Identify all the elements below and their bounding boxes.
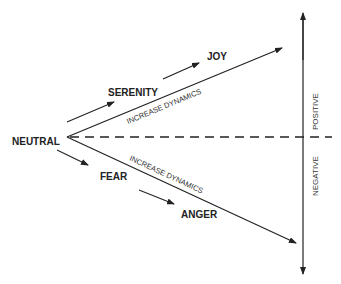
lower-increase-dynamics-label: INCREASE DYNAMICS — [128, 154, 204, 196]
diagram-svg: NEUTRAL SERENITY JOY FEAR ANGER INCREASE… — [0, 0, 341, 284]
emotion-dynamics-diagram: NEUTRAL SERENITY JOY FEAR ANGER INCREASE… — [0, 0, 341, 284]
serenity-label: SERENITY — [108, 87, 158, 98]
fear-label: FEAR — [100, 171, 128, 182]
negative-dynamics-line — [67, 137, 296, 243]
serenity-arrow — [67, 102, 114, 122]
positive-dynamics-line — [67, 48, 282, 137]
negative-label: NEGATIVE — [311, 156, 320, 196]
anger-arrow — [139, 190, 174, 204]
positive-label: POSITIVE — [311, 93, 320, 130]
joy-arrow — [163, 63, 199, 79]
fear-arrow — [57, 150, 88, 165]
neutral-label: NEUTRAL — [12, 136, 60, 147]
joy-label: JOY — [207, 51, 227, 62]
anger-label: ANGER — [181, 209, 218, 220]
